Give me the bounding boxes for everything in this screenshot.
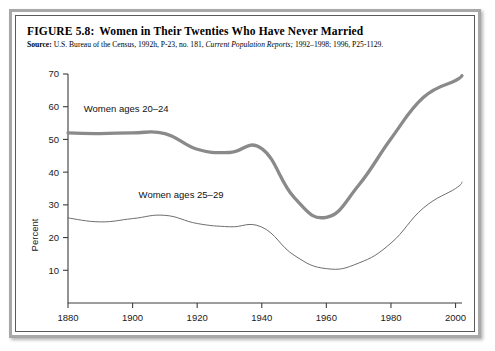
source-label: Source: — [27, 40, 52, 49]
x-tick-label: 1900 — [122, 312, 143, 323]
chart-plot-region: 10203040506070 1880190019201940196019802… — [16, 60, 482, 339]
x-tick-label: 1920 — [187, 312, 208, 323]
figure-source: Source: U.S. Bureau of the Census, 1992h… — [27, 41, 463, 49]
y-tick-label: 10 — [48, 265, 59, 276]
source-text-part2: 1992–1998; 1996, P25-1129. — [295, 40, 383, 49]
x-tick-label: 1880 — [57, 312, 78, 323]
x-tick-label: 1960 — [316, 312, 337, 323]
y-tick-label: 40 — [48, 167, 59, 178]
y-tick-label: 60 — [48, 101, 59, 112]
figure-title-text: Women in Their Twenties Who Have Never M… — [99, 25, 363, 37]
x-tick-label: 1940 — [251, 312, 272, 323]
figure-inner-border: FIGURE 5.8: Women in Their Twenties Who … — [15, 15, 475, 332]
series-line-women-ages-25-29 — [68, 182, 462, 269]
line-chart-svg: 10203040506070 1880190019201940196019802… — [16, 60, 482, 339]
y-tick-label: 70 — [48, 68, 59, 79]
y-axis-ticks: 10203040506070 — [48, 68, 68, 275]
x-tick-label: 1980 — [380, 312, 401, 323]
y-tick-label: 30 — [48, 199, 59, 210]
series-annotation-label: Women ages 25–29 — [139, 189, 224, 200]
y-tick-label: 20 — [48, 232, 59, 243]
source-text-part1: U.S. Bureau of the Census, 1992h, P-23, … — [54, 40, 204, 49]
x-axis-ticks: 1880190019201940196019802000 — [57, 303, 466, 323]
figure-header: FIGURE 5.8: Women in Their Twenties Who … — [16, 16, 474, 54]
y-tick-label: 50 — [48, 134, 59, 145]
figure-number: FIGURE 5.8: — [27, 25, 94, 37]
x-tick-label: 2000 — [445, 312, 466, 323]
figure-frame: FIGURE 5.8: Women in Their Twenties Who … — [9, 9, 481, 338]
source-publication-name: Current Population Reports; — [206, 40, 293, 49]
y-axis-title: Percent — [29, 218, 40, 251]
figure-title: FIGURE 5.8: Women in Their Twenties Who … — [27, 25, 463, 37]
series-line-women-ages-20-24 — [68, 76, 462, 218]
series-annotation-label: Women ages 20–24 — [84, 103, 169, 114]
